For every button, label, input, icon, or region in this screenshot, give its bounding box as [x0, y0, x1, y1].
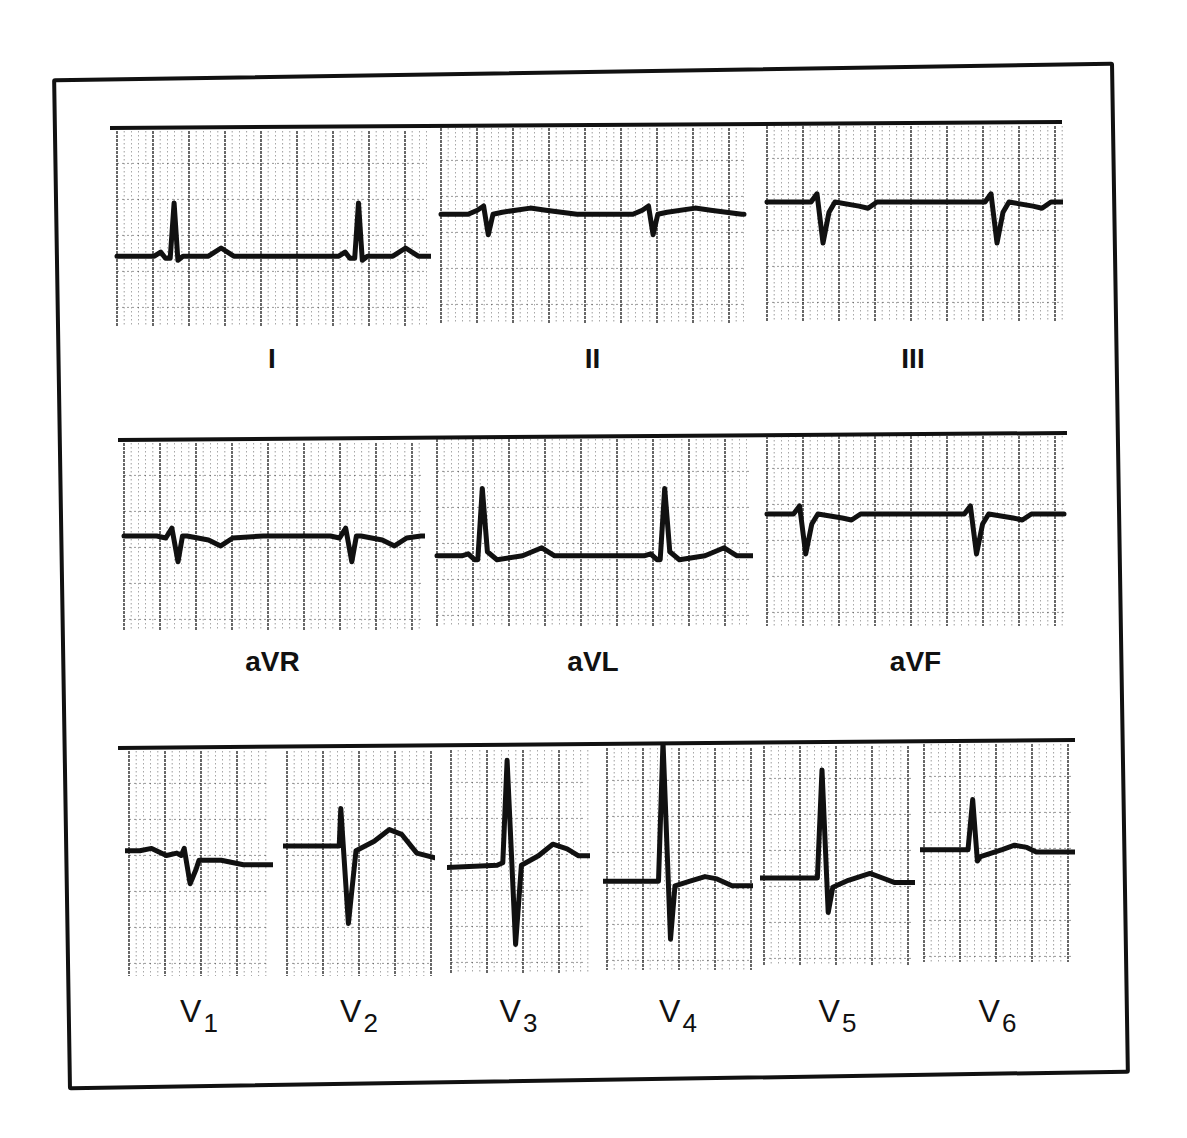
lead-label-v3: V3	[459, 995, 579, 1036]
ecg-strip-v2	[283, 745, 435, 980]
ecg-strip-i	[113, 125, 431, 330]
grid	[117, 131, 427, 326]
grid	[451, 750, 588, 973]
lead-label-avl: aVL	[533, 648, 653, 676]
ecg-trace	[603, 742, 753, 939]
grid	[287, 751, 431, 976]
lead-label-avr: aVR	[213, 648, 333, 676]
ecg-strip-v6	[920, 738, 1075, 966]
lead-label-avf: aVF	[856, 648, 976, 676]
ecg-strip-avf	[763, 430, 1068, 630]
ecg-strip-v4	[603, 742, 753, 974]
grid	[607, 748, 751, 970]
ecg-trace	[117, 203, 431, 260]
grid	[764, 746, 911, 966]
lead-label-i: I	[212, 345, 332, 373]
ecg-strip-iii	[763, 120, 1063, 325]
ecg-strip-v5	[760, 740, 915, 970]
ecg-strip-avr	[120, 437, 425, 635]
ecg-trace	[125, 848, 273, 883]
lead-label-ii: II	[533, 345, 653, 373]
ecg-trace	[124, 528, 425, 562]
lead-label-iii: III	[853, 345, 973, 373]
lead-label-v1: V1	[139, 995, 259, 1036]
ecg-strip-v3	[447, 744, 590, 977]
lead-label-v4: V4	[618, 995, 738, 1036]
lead-label-v2: V2	[299, 995, 419, 1036]
lead-label-v5: V5	[778, 995, 898, 1036]
ecg-trace	[447, 760, 590, 944]
lead-label-v6: V6	[938, 995, 1058, 1036]
ecg-strip-avl	[433, 433, 753, 631]
grid	[767, 126, 1062, 321]
ecg-strip-ii	[437, 122, 748, 327]
ecg-figure: IIIIIIaVRaVLaVFV1V2V3V4V5V6	[0, 0, 1187, 1138]
ecg-trace	[920, 800, 1075, 862]
ecg-strip-v1	[125, 745, 273, 980]
ecg-trace	[760, 770, 915, 913]
